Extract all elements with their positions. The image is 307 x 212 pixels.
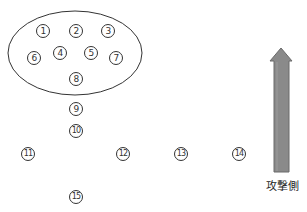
attack-direction-arrow-icon: [270, 48, 292, 172]
rugby-formation-diagram: 123456789101112131415 攻撃側: [0, 0, 307, 212]
player-marker-4: 4: [53, 46, 67, 60]
player-marker-13: 13: [174, 147, 188, 161]
player-marker-9: 9: [69, 102, 83, 116]
player-marker-3: 3: [101, 24, 115, 38]
player-marker-11: 11: [21, 147, 35, 161]
player-marker-2: 2: [69, 24, 83, 38]
player-marker-10: 10: [69, 124, 83, 138]
player-marker-6: 6: [27, 51, 41, 65]
player-marker-8: 8: [69, 72, 83, 86]
attacking-side-label: 攻撃側: [262, 177, 302, 193]
player-marker-7: 7: [109, 51, 123, 65]
player-marker-14: 14: [232, 147, 246, 161]
player-marker-12: 12: [116, 147, 130, 161]
player-marker-15: 15: [69, 190, 83, 204]
player-marker-5: 5: [84, 46, 98, 60]
player-marker-1: 1: [36, 24, 50, 38]
